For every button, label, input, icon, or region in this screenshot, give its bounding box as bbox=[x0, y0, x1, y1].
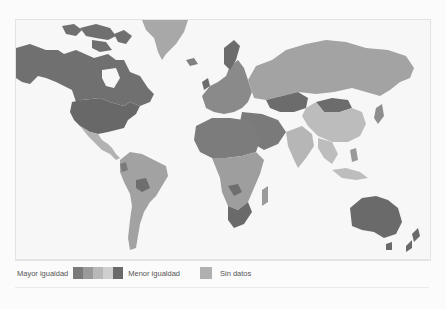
legend-color-scale bbox=[73, 267, 123, 279]
region-europe[interactable] bbox=[202, 60, 252, 114]
map-legend: Mayor igualdad Menor igualdad Sin datos bbox=[17, 266, 251, 280]
legend-swatch-4 bbox=[103, 267, 113, 279]
world-map[interactable] bbox=[15, 19, 431, 261]
region-canada[interactable] bbox=[16, 44, 154, 106]
region-africa-north[interactable] bbox=[194, 118, 260, 158]
legend-no-data: Sin datos bbox=[200, 267, 251, 279]
region-japan[interactable] bbox=[374, 104, 384, 124]
region-new-zealand[interactable] bbox=[412, 228, 420, 242]
legend-no-data-swatch bbox=[200, 267, 212, 279]
region-greenland[interactable] bbox=[142, 20, 188, 60]
legend-low-equality-label: Menor igualdad bbox=[128, 269, 180, 278]
legend-bottom-divider bbox=[15, 287, 429, 288]
region-india[interactable] bbox=[286, 126, 314, 168]
region-madagascar[interactable] bbox=[262, 186, 268, 206]
region-australia[interactable] bbox=[350, 196, 402, 238]
region-africa-central[interactable] bbox=[212, 152, 264, 210]
legend-swatch-5 bbox=[113, 267, 123, 279]
world-map-svg bbox=[16, 20, 430, 260]
legend-swatch-3 bbox=[93, 267, 103, 279]
legend-swatch-2 bbox=[83, 267, 93, 279]
legend-no-data-label: Sin datos bbox=[220, 269, 251, 278]
region-russia[interactable] bbox=[248, 40, 414, 100]
region-south-america[interactable] bbox=[120, 152, 168, 250]
legend-top-divider bbox=[15, 259, 429, 260]
legend-swatch-1 bbox=[73, 267, 83, 279]
region-united-states[interactable] bbox=[70, 98, 140, 134]
legend-high-equality-label: Mayor igualdad bbox=[17, 269, 68, 278]
